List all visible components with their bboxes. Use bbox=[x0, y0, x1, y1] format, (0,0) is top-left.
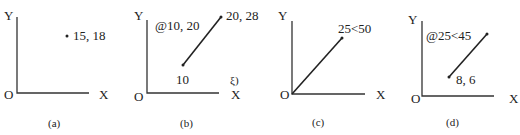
x-axis-label: X bbox=[231, 87, 241, 102]
origin-label: O bbox=[280, 87, 289, 102]
relative-coordinate-label: @10, 20 bbox=[155, 18, 199, 33]
panel-caption: (d) bbox=[446, 116, 459, 129]
y-axis-label: Y bbox=[134, 8, 144, 23]
y-axis-label: Y bbox=[408, 12, 418, 27]
point-marker bbox=[66, 35, 69, 38]
start-point bbox=[448, 76, 451, 79]
point-label: 15, 18 bbox=[73, 28, 106, 43]
panel-a: Y O X 15, 18 (a) bbox=[4, 8, 109, 130]
start-point bbox=[182, 64, 185, 67]
origin-label: O bbox=[4, 87, 13, 102]
panel-caption: (c) bbox=[312, 116, 325, 129]
panel-caption: (a) bbox=[48, 117, 61, 130]
panel-caption: (b) bbox=[180, 117, 193, 130]
x-axis-label: X bbox=[509, 91, 519, 106]
x-axis-label: X bbox=[376, 87, 386, 102]
start-point-label: 10 bbox=[176, 72, 189, 87]
partial-label: ξ) bbox=[230, 74, 239, 87]
end-point bbox=[220, 16, 223, 19]
x-axis-label: X bbox=[99, 87, 109, 102]
origin-label: O bbox=[134, 89, 143, 104]
panel-b: Y O X @10, 20 20, 28 10 ξ) (b) bbox=[134, 8, 259, 130]
polar-coordinate-label: 25<50 bbox=[338, 21, 371, 36]
relative-polar-label: @25<45 bbox=[426, 28, 471, 43]
panel-c: Y O X 25<50 (c) bbox=[278, 8, 386, 129]
origin-label: O bbox=[411, 91, 420, 106]
end-point bbox=[486, 33, 489, 36]
y-axis-label: Y bbox=[278, 8, 288, 23]
line-segment bbox=[292, 38, 342, 94]
end-point-label: 20, 28 bbox=[226, 8, 259, 23]
y-axis-label: Y bbox=[4, 8, 14, 23]
coordinate-diagram: Y O X 15, 18 (a) Y O X @10, 20 20, 28 10… bbox=[0, 0, 520, 135]
start-point-label: 8, 6 bbox=[456, 72, 476, 87]
panel-d: Y O X @25<45 8, 6 (d) bbox=[408, 12, 519, 129]
end-point bbox=[341, 37, 344, 40]
